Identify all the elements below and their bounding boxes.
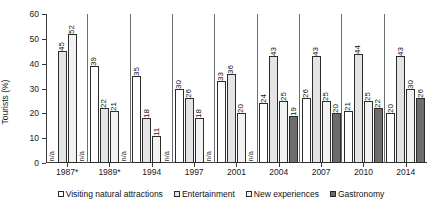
bar-slot: 43 [269,14,278,163]
bar-value-label: 25 [280,92,288,101]
bar[interactable]: 30 [175,89,184,164]
bar-value-label: 52 [68,25,76,34]
bar-group: 244325192004 [258,14,300,163]
bar-slot: 25 [364,14,373,163]
bar-slot: 43 [396,14,405,163]
bar[interactable]: 18 [142,118,151,163]
y-axis-tick-label: 0 [34,159,39,168]
legend-item[interactable]: Visiting natural attractions [58,189,163,199]
bar[interactable]: 35 [132,76,141,163]
bar-slot: 22 [374,14,383,163]
bar-value-label: 26 [185,90,193,99]
bar-slot: 20 [386,14,395,163]
bar-slot: 36 [227,14,236,163]
bar-value-label: 36 [227,65,235,74]
bar[interactable]: 43 [312,56,321,163]
x-axis-tick-label: 1997 [185,168,204,177]
bar-group: 204330262014 [385,14,427,163]
bar[interactable]: 52 [68,34,77,163]
bar-slot: n/a [78,14,87,163]
x-axis-tick-label: 2001 [227,168,246,177]
bar[interactable]: 43 [396,56,405,163]
y-axis-tick-label: 40 [30,59,39,68]
x-axis-tick-label: 1987* [56,168,78,177]
bar-slot: 35 [132,14,141,163]
bar-na-label: n/a [248,151,256,161]
bar-value-label: 20 [332,104,340,113]
x-axis-tick-label: 2004 [269,168,288,177]
bar[interactable]: 26 [416,98,425,163]
bar-value-label: 43 [270,47,278,56]
bar[interactable]: 21 [110,111,119,163]
bar-value-label: 43 [312,47,320,56]
bar[interactable]: 45 [58,51,67,163]
bar[interactable]: 36 [227,74,236,163]
bar[interactable]: 25 [279,101,288,163]
bar[interactable]: 20 [386,113,395,163]
bar-slot: 45 [58,14,67,163]
bar[interactable]: 25 [364,101,373,163]
bar-value-label: 22 [374,99,382,108]
bar-slot: 30 [175,14,184,163]
legend-swatch-icon [330,191,336,197]
bar-slot: 30 [406,14,415,163]
bar-na-label: n/a [48,151,56,161]
bar-slot: 43 [312,14,321,163]
bar-slot: n/a [205,14,214,163]
bar[interactable]: 43 [269,56,278,163]
bar[interactable]: 39 [90,66,99,163]
bar-groups: n/a4552n/a1987*392221n/a1989*351811n/a19… [46,14,427,163]
bar-slot: 21 [344,14,353,163]
bar-slot: 26 [416,14,425,163]
bar-value-label: 19 [290,107,298,116]
bar[interactable]: 22 [100,108,109,163]
bar[interactable]: 44 [354,54,363,163]
bar[interactable]: 11 [152,136,161,163]
legend-swatch-icon [58,191,64,197]
bar-slot: 11 [152,14,161,163]
x-axis-tick-label: 2007 [312,168,331,177]
bar-slot: 20 [237,14,246,163]
bar-slot: 19 [289,14,298,163]
legend-item[interactable]: Gastronomy [330,189,384,199]
bar[interactable]: 21 [344,111,353,163]
bar[interactable]: 24 [259,103,268,163]
legend-item[interactable]: New experiences [246,189,319,199]
bar-value-label: 24 [260,95,268,104]
y-axis-tick [42,163,46,164]
bar-slot: 22 [100,14,109,163]
bar-value-label: 11 [153,127,161,135]
bar[interactable]: 30 [406,89,415,164]
bar[interactable]: 22 [374,108,383,163]
bar-value-label: 25 [364,92,372,101]
bar[interactable]: 25 [322,101,331,163]
legend-label: Visiting natural attractions [66,189,163,199]
bar[interactable]: 19 [289,116,298,163]
bar[interactable]: 26 [302,98,311,163]
bar-slot: 24 [259,14,268,163]
bar[interactable]: 18 [195,118,204,163]
y-axis-tick-label: 20 [30,109,39,118]
bar-group: 264325202007 [300,14,342,163]
bar-slot: 18 [195,14,204,163]
legend-item[interactable]: Entertainment [174,189,235,199]
bar[interactable]: 20 [332,113,341,163]
bar-value-label: 20 [237,104,245,113]
y-axis-title: Tourists (%) [0,79,10,124]
bar[interactable]: 26 [185,98,194,163]
bar[interactable]: 33 [217,81,226,163]
bar-na-label: n/a [163,151,171,161]
bar-value-label: 21 [110,102,118,111]
bar-group: 214425222010 [342,14,384,163]
legend-swatch-icon [174,191,180,197]
bar[interactable]: 20 [237,113,246,163]
bar-slot: n/a [120,14,129,163]
bar-value-label: 25 [322,92,330,101]
bar-value-label: 30 [175,80,183,89]
bar-value-label: 22 [100,99,108,108]
bar-slot: n/a [247,14,256,163]
plot-area: 0102030405060 n/a4552n/a1987*392221n/a19… [46,14,427,163]
bar-slot: 33 [217,14,226,163]
legend-swatch-icon [246,191,252,197]
bar-value-label: 35 [133,67,141,76]
